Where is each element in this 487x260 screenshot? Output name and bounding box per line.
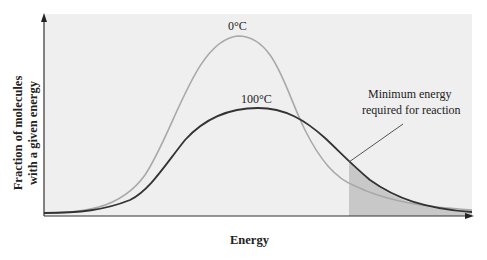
y-axis-label-line2: with a given energy [26, 76, 41, 191]
x-axis-label: Energy [230, 233, 269, 248]
annotation-line2: required for reaction [362, 102, 461, 118]
y-axis-label-line1: Fraction of molecules [11, 76, 26, 191]
label-0c: 0°C [228, 19, 247, 34]
y-axis-label: Fraction of molecules with a given energ… [2, 68, 50, 198]
label-100c: 100°C [241, 92, 272, 107]
minimum-energy-annotation: Minimum energy required for reaction [362, 86, 461, 118]
plot-svg [0, 0, 487, 260]
energy-distribution-chart: Fraction of molecules with a given energ… [0, 0, 487, 260]
annotation-line1: Minimum energy [362, 86, 461, 102]
